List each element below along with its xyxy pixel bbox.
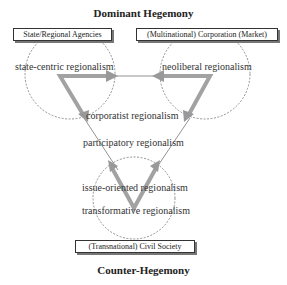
label-transformative: transformative regionalism: [82, 205, 190, 216]
label-corporatist: corporatist regionalism: [86, 110, 178, 121]
civil-society-box: (Transnational) Civil Society: [75, 240, 195, 253]
label-issue-oriented: issue-oriented regionalism: [82, 182, 188, 193]
state-agencies-box: State/Regional Agencies: [13, 28, 112, 41]
corporation-market-box: (Multinational) Corporation (Market): [136, 28, 278, 41]
label-neoliberal: neoliberal regionalism: [162, 61, 252, 72]
label-participatory: participatory regionalism: [83, 137, 184, 148]
label-state-centric: state-centric regionalism: [15, 61, 114, 72]
title-counter-hegemony: Counter-Hegemony: [0, 264, 287, 276]
civil-circle: [93, 157, 175, 239]
